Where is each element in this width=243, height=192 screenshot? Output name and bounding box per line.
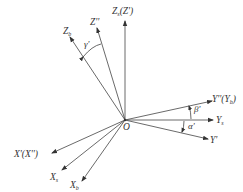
label-y-double-prime: Y''(Yb) xyxy=(212,95,236,105)
label-x-prime: X'(X'') xyxy=(14,150,38,160)
label-gamma: γ' xyxy=(84,40,89,49)
coordinate-frame-diagram: Zs(Z') Z'' Zb γ' Y''(Yb) Ys Y' β' α' O X… xyxy=(0,0,243,192)
axis-zb xyxy=(70,37,125,120)
label-zs: Zs(Z') xyxy=(112,7,133,17)
label-zb: Zb xyxy=(63,27,71,37)
axis-xs xyxy=(62,120,125,170)
label-alpha: α' xyxy=(188,122,195,131)
label-xb: Xb xyxy=(70,181,79,191)
label-origin: O xyxy=(123,123,130,133)
axis-xb xyxy=(82,120,125,181)
label-xs: Xs xyxy=(50,173,58,183)
axis-z-double-prime xyxy=(97,28,125,120)
label-beta: β' xyxy=(194,105,200,114)
axis-x-prime xyxy=(52,120,125,153)
axis-y-prime xyxy=(125,120,208,139)
beta-arc xyxy=(189,106,191,119)
label-z-double-prime: Z'' xyxy=(90,18,99,28)
axes-drawing xyxy=(0,0,243,192)
label-ys: Ys xyxy=(216,116,224,126)
alpha-arc xyxy=(182,121,184,132)
label-y-prime: Y' xyxy=(210,136,217,146)
